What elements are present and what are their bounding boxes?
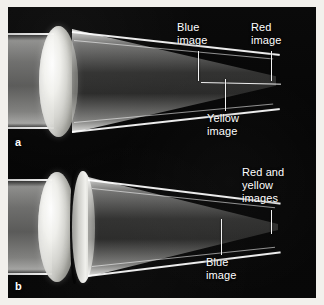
callout-yellow-image-a: Yellow image bbox=[207, 112, 239, 138]
leader-red-image-a bbox=[271, 51, 272, 81]
callout-blue-image-b: Blue image bbox=[206, 256, 236, 282]
leader-blue-image-b bbox=[221, 219, 222, 255]
chromatic-aberration-figure: Blue image Red image Yellow image a bbox=[0, 0, 324, 305]
leader-yellow-image-a bbox=[225, 79, 226, 111]
beam-bottom-edge-b bbox=[8, 273, 52, 275]
panel-b: Red and yellow images Blue image b bbox=[8, 154, 316, 298]
panel-letter-b: b bbox=[15, 280, 22, 292]
callout-blue-image-a: Blue image bbox=[177, 21, 207, 47]
leader-red-yellow-images-b bbox=[271, 210, 272, 234]
converging-light-cone-a bbox=[72, 29, 276, 133]
panel-a: Blue image Red image Yellow image a bbox=[8, 7, 316, 154]
photographic-plate: Blue image Red image Yellow image a bbox=[8, 7, 316, 298]
leader-blue-image-a bbox=[198, 51, 199, 81]
panel-letter-a: a bbox=[15, 136, 21, 148]
callout-red-yellow-images-b: Red and yellow images bbox=[242, 166, 284, 205]
callout-red-image-a: Red image bbox=[251, 21, 281, 47]
